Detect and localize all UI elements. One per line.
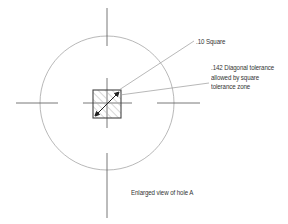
hole-tolerance-diagram: .10 Square .142 Diagonal tolerance allow… [0, 0, 288, 224]
label-square-size: .10 Square [196, 37, 225, 47]
label-diagonal-line-1: .142 Diagonal tolerance [211, 63, 274, 73]
label-diagonal-line-3: tolerance zone [211, 82, 274, 92]
caption-enlarged-view: Enlarged view of hole A [131, 188, 193, 198]
label-diagonal-line-2: allowed by square [211, 73, 274, 83]
label-diagonal-tolerance: .142 Diagonal tolerance allowed by squar… [211, 63, 274, 92]
leader-square [119, 41, 194, 90]
leader-diagonal [120, 83, 209, 95]
